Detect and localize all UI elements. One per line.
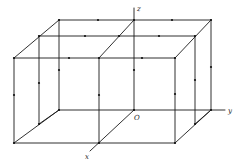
lattice-point (118, 35, 120, 37)
box-edges (14, 20, 211, 143)
lattice-point (68, 57, 70, 59)
lattice-point (141, 57, 143, 59)
lattice-point (38, 35, 40, 37)
y-axis-label: y (227, 107, 233, 115)
box-edge (175, 20, 211, 58)
lattice-point (210, 109, 212, 111)
lattice-point (97, 19, 99, 21)
lattice-point (13, 57, 15, 59)
coordinate-axes (90, 8, 225, 151)
lattice-point (13, 142, 15, 144)
lattice-point (210, 19, 212, 21)
lattice-point (194, 35, 196, 37)
box-edge (175, 110, 211, 143)
lattice-point (58, 19, 60, 21)
lattice-point (194, 123, 196, 125)
lattice-point (171, 19, 173, 21)
lattice-point (194, 79, 196, 81)
lattice-box-diagram: z y x O (0, 0, 240, 167)
x-axis-label: x (85, 153, 89, 161)
lattice-point (174, 93, 176, 95)
lattice-point (133, 109, 135, 111)
x-axis (90, 110, 134, 151)
box-edge (14, 20, 59, 58)
origin-label: O (134, 114, 140, 122)
lattice-points (13, 19, 212, 144)
lattice-point (98, 94, 100, 96)
lattice-point (13, 94, 15, 96)
lattice-point (174, 142, 176, 144)
lattice-point (133, 69, 135, 71)
lattice-point (38, 82, 40, 84)
lattice-point (158, 35, 160, 37)
lattice-point (174, 57, 176, 59)
lattice-point (84, 35, 86, 37)
box-edge (14, 110, 59, 143)
lattice-point (58, 69, 60, 71)
box-edge (99, 20, 134, 58)
z-axis-label: z (136, 5, 141, 13)
lattice-point (210, 66, 212, 68)
lattice-point (133, 19, 135, 21)
lattice-point (98, 57, 100, 59)
lattice-point (58, 109, 60, 111)
lattice-point (98, 142, 100, 144)
lattice-point (38, 123, 40, 125)
